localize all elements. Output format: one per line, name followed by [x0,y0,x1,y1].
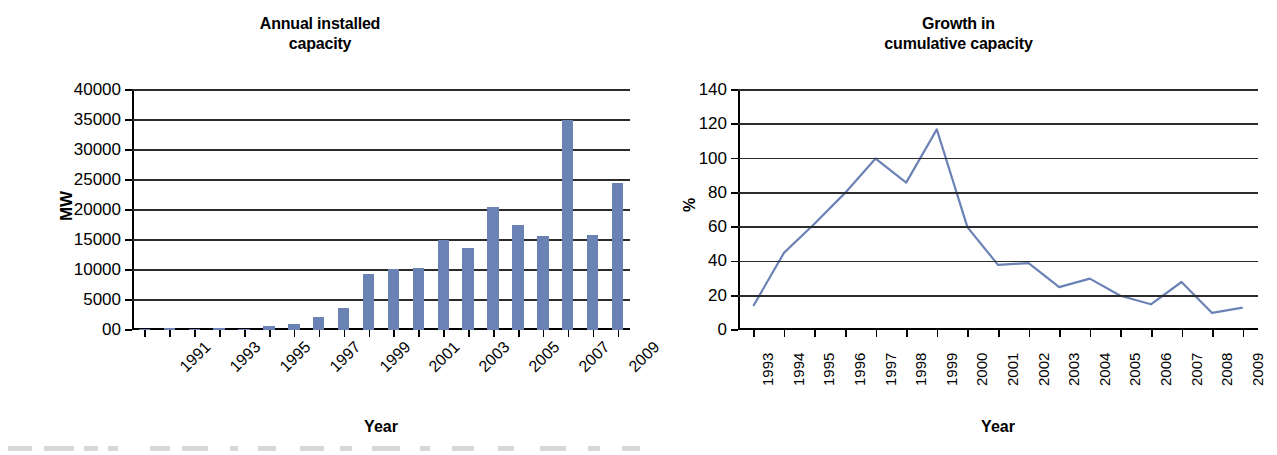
bar-annual-capacity [313,317,324,331]
chart-title-line-2: capacity [0,34,640,54]
x-tick-label-bar: 2001 [426,338,464,376]
x-tick-bar [618,330,620,337]
x-tick-bar [194,330,196,337]
bar-annual-capacity [363,274,374,330]
x-tick-label-line: 2004 [1096,353,1113,386]
x-tick-label-line: 2001 [1004,353,1021,386]
x-tick-label-line: 1994 [790,353,807,386]
y-tick-label-line: 140 [699,80,727,100]
x-tick-line [1243,330,1245,337]
caption-text-smudge [420,446,430,451]
x-tick-line [1120,330,1122,337]
caption-text-smudge [230,446,238,451]
gridline-y [132,239,630,241]
x-tick-label-line: 2009 [1249,353,1266,386]
x-tick-label-line: 2003 [1065,353,1082,386]
y-tick-label-line: 100 [699,149,727,169]
bar-annual-capacity [413,268,424,330]
caption-text-smudge [108,446,118,451]
caption-text-smudge [258,446,276,451]
y-tick-bar [125,269,132,271]
gridline-y [738,261,1258,263]
x-tick-line [967,330,969,337]
bar-annual-capacity [612,183,623,330]
chart-title-annual-installed-capacity: Annual installed capacity [0,14,640,54]
bar-annual-capacity [338,308,349,330]
y-tick-line [731,192,738,194]
x-tick-bar [319,330,321,337]
x-axis-title-year-line: Year [738,418,1258,436]
x-tick-bar [518,330,520,337]
x-tick-line [784,330,786,337]
x-tick-label-line: 1993 [759,353,776,386]
y-tick-line [731,295,738,297]
y-tick-line [731,123,738,125]
x-tick-bar [568,330,570,337]
caption-text-smudge [588,446,600,451]
y-tick-label-bar: 15000 [74,230,121,250]
caption-text-smudge [622,446,640,451]
caption-text-smudge [44,446,74,451]
gridline-y [132,119,630,121]
chart-title-line-1: Annual installed [0,14,640,34]
chart-title-growth-cumulative-capacity: Growth in cumulative capacity [640,14,1277,54]
bar-annual-capacity [462,248,473,330]
caption-text-smudge [452,446,474,451]
gridline-y [738,123,1258,125]
y-tick-label-line: 80 [708,183,727,203]
y-tick-label-bar: 10000 [74,260,121,280]
x-tick-line [937,330,939,337]
gridline-y [738,226,1258,228]
caption-text-smudge [540,446,566,451]
plot-area-line: 020406080100120140 [738,90,1258,330]
x-tick-label-line: 2002 [1035,353,1052,386]
x-tick-line [814,330,816,337]
y-tick-label-bar: 00 [102,320,121,340]
x-tick-bar [269,330,271,337]
x-tick-bar [418,330,420,337]
y-tick-label-line: 60 [708,217,727,237]
x-tick-label-bar: 1999 [376,338,414,376]
y-axis-title-percent: % [681,198,699,212]
gridline-y [132,149,630,151]
x-tick-bar [169,330,171,337]
y-tick-line [731,226,738,228]
x-tick-bar [344,330,346,337]
gridline-y [738,295,1258,297]
y-tick-bar [125,89,132,91]
x-tick-label-line: 2006 [1157,353,1174,386]
x-tick-label-line: 1995 [820,353,837,386]
x-tick-label-line: 1996 [851,353,868,386]
x-tick-line [1090,330,1092,337]
plot-area-bar: 4000035000300002500020000150001000050000… [132,90,630,330]
page-caption-strip [0,437,1277,455]
y-tick-label-bar: 35000 [74,110,121,130]
x-tick-label-line: 1998 [912,353,929,386]
y-tick-line [731,89,738,91]
chart-title-line-1: Growth in [640,14,1277,34]
x-tick-line [1029,330,1031,337]
x-tick-bar [144,330,146,337]
chart-panel-annual-installed-capacity: Annual installed capacity 40000350003000… [0,0,640,455]
x-tick-line [906,330,908,337]
y-tick-label-line: 20 [708,286,727,306]
bar-annual-capacity [438,240,449,330]
y-tick-bar [125,299,132,301]
bar-annual-capacity [537,236,548,330]
x-tick-label-bar: 2003 [476,338,514,376]
gridline-y [132,299,630,301]
caption-text-smudge [150,446,170,451]
x-tick-bar [593,330,595,337]
y-tick-label-bar: 20000 [74,200,121,220]
x-tick-bar [543,330,545,337]
y-tick-bar [125,209,132,211]
x-tick-label-line: 1999 [943,353,960,386]
x-tick-label-bar: 2005 [525,338,563,376]
x-tick-bar [294,330,296,337]
x-axis-title-year-bar: Year [132,418,630,436]
x-tick-line [1059,330,1061,337]
x-tick-bar [369,330,371,337]
x-tick-label-bar: 1997 [326,338,364,376]
x-tick-line [1182,330,1184,337]
x-tick-label-line: 2008 [1218,353,1235,386]
